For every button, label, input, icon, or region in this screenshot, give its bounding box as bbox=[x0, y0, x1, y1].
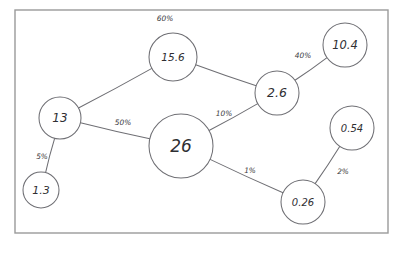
node-n13[interactable]: 13 bbox=[39, 97, 81, 139]
edge-label-e0_26-0_54: 2% bbox=[337, 167, 349, 176]
edge-label-e13-26: 50% bbox=[115, 118, 131, 127]
edge-label-e26-0_26: 1% bbox=[244, 166, 256, 175]
network-diagram: 131.315.6262.610.40.540.26 60%50%5%10%40… bbox=[0, 0, 405, 257]
edge-label-e13-1_3: 5% bbox=[36, 152, 48, 161]
node-label-n2_6: 2.6 bbox=[267, 85, 287, 100]
node-label-n13: 13 bbox=[52, 111, 67, 125]
node-layer: 131.315.6262.610.40.540.26 bbox=[23, 23, 374, 224]
edge-e2_6-10_4 bbox=[295, 58, 327, 81]
edge-label-e13-15_6: 60% bbox=[157, 14, 173, 23]
edge-e15_6-2_6 bbox=[196, 65, 257, 86]
edge-e0_26-0_54 bbox=[315, 146, 340, 183]
node-n10_4[interactable]: 10.4 bbox=[323, 23, 367, 67]
node-n15_6[interactable]: 15.6 bbox=[149, 33, 197, 81]
node-label-n0_54: 0.54 bbox=[341, 123, 363, 134]
edge-e13-15_6 bbox=[78, 68, 151, 108]
node-label-n15_6: 15.6 bbox=[161, 51, 185, 63]
node-label-n10_4: 10.4 bbox=[332, 38, 358, 52]
node-label-n26: 26 bbox=[170, 136, 192, 156]
node-label-n0_26: 0.26 bbox=[292, 197, 314, 208]
diagram-canvas: 131.315.6262.610.40.540.26 60%50%5%10%40… bbox=[0, 0, 405, 257]
node-n26[interactable]: 26 bbox=[149, 114, 213, 178]
edge-e26-0_26 bbox=[210, 159, 283, 192]
node-label-n1_3: 1.3 bbox=[32, 184, 50, 197]
node-n2_6[interactable]: 2.6 bbox=[255, 71, 299, 115]
node-n0_26[interactable]: 0.26 bbox=[281, 180, 325, 224]
edge-label-e2_6-10_4: 40% bbox=[295, 51, 311, 60]
node-n0_54[interactable]: 0.54 bbox=[330, 106, 374, 150]
node-n1_3[interactable]: 1.3 bbox=[23, 172, 59, 208]
edge-label-e26-2_6: 10% bbox=[216, 109, 232, 118]
